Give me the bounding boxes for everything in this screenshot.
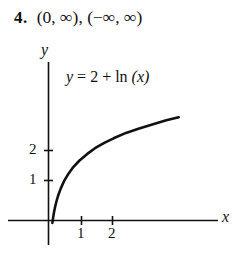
plot-canvas: [0, 0, 239, 254]
graph-plot: y x y = 2 + ln (x) 2 1 1 2: [0, 0, 239, 254]
figure-page: 4.(0, ∞), (−∞, ∞) y x y = 2 + ln (x) 2 1…: [0, 0, 239, 254]
log-curve: [52, 117, 178, 223]
